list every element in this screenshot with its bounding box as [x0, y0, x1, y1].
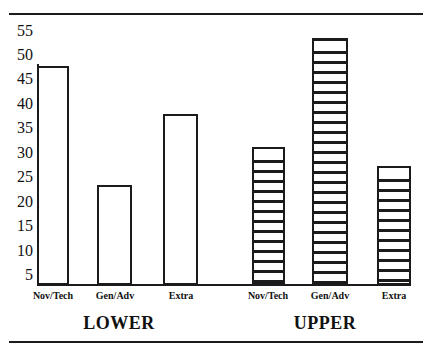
y-tick-50: 50: [3, 47, 33, 63]
bar-lower-nov-tech[interactable]: [37, 66, 69, 285]
x-label-lower-gen-adv: Gen/Adv: [82, 290, 148, 302]
bar-lower-gen-adv[interactable]: [97, 185, 132, 285]
bar-upper-nov-tech[interactable]: [252, 147, 285, 285]
y-tick-55: 55: [3, 23, 33, 39]
x-axis-line: [37, 284, 411, 286]
x-label-upper-gen-adv: Gen/Adv: [297, 290, 363, 302]
x-label-lower-extra: Extra: [148, 290, 214, 302]
x-label-upper-nov-tech: Nov/Tech: [235, 290, 301, 302]
y-tick-10: 10: [3, 243, 33, 259]
y-tick-25: 25: [3, 169, 33, 185]
y-tick-30: 30: [3, 145, 33, 161]
y-tick-5: 5: [3, 267, 33, 283]
bar-upper-extra[interactable]: [377, 166, 411, 285]
y-tick-35: 35: [3, 120, 33, 136]
group-label-lower: LOWER: [56, 313, 182, 333]
x-label-upper-extra: Extra: [361, 290, 426, 302]
bar-lower-extra[interactable]: [163, 114, 198, 285]
bar-chart-figure: 55 50 45 40 35 30 25 20 15 10 5 Nov/Tech…: [0, 0, 426, 348]
y-tick-15: 15: [3, 218, 33, 234]
y-tick-45: 45: [3, 71, 33, 87]
plot-area: 55 50 45 40 35 30 25 20 15 10 5 Nov/Tech…: [0, 0, 426, 348]
y-tick-40: 40: [3, 96, 33, 112]
y-tick-20: 20: [3, 194, 33, 210]
bar-upper-gen-adv[interactable]: [312, 38, 348, 285]
group-label-upper: UPPER: [262, 313, 388, 333]
x-label-lower-nov-tech: Nov/Tech: [20, 290, 86, 302]
